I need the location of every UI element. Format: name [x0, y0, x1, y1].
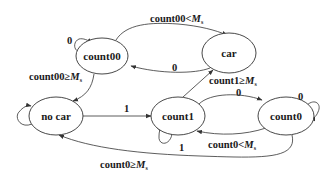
state-no-car: no car	[29, 97, 83, 135]
state-count00: count00	[76, 38, 128, 74]
state-label: count00	[83, 50, 121, 62]
edge-label-count00-self: 0	[67, 35, 72, 46]
state-count0: count0	[258, 97, 314, 135]
state-count1: count1	[151, 97, 205, 135]
edge-label-count1-to-car: count1≥Ms	[209, 75, 257, 87]
edge-count0-to-count1	[197, 128, 266, 134]
edge-label-count00-to-car: count00<Ms	[150, 13, 204, 25]
edge-label-count1-self: 1	[179, 142, 184, 153]
edge-count1-to-count0	[199, 95, 262, 104]
state-label: car	[221, 47, 236, 59]
state-label: count0	[270, 110, 302, 122]
state-car: car	[202, 33, 256, 73]
edge-label-count0-to-count1: count0<Ms	[208, 139, 257, 151]
state-label: count1	[162, 110, 194, 122]
edge-label-car-to-count00: 0	[172, 62, 177, 73]
edge-label-count0-self: 0	[298, 91, 303, 102]
state-label: no car	[41, 110, 71, 122]
edge-label-count0-to-no-car: count0≥Ms	[100, 159, 148, 171]
edge-car-to-count00	[131, 66, 210, 72]
edge-count0-to-no-car	[59, 135, 293, 157]
state-diagram: count00 car no car count1 count0 0 count…	[0, 0, 326, 181]
edge-count00-to-car	[116, 23, 227, 40]
edge-label-no-car-to-count1: 1	[124, 103, 129, 114]
edge-label-count1-to-count0: 0	[236, 87, 241, 98]
edge-label-count00-to-no-car: count00≥Ms	[29, 71, 83, 83]
